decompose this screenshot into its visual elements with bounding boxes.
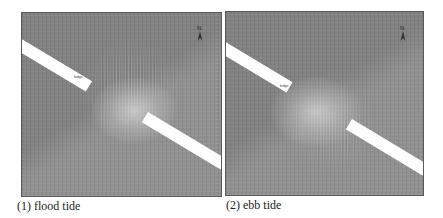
- bridge-label: bridge: [280, 84, 288, 88]
- north-arrow-icon: N: [196, 25, 204, 43]
- bridge-label: bridge: [74, 75, 82, 79]
- flood-tide-caption: (1) flood tide: [17, 199, 80, 213]
- ebb-tide-caption: (2) ebb tide: [226, 198, 281, 212]
- north-arrow-icon: N: [399, 25, 407, 43]
- ebb-tide-map: bridge N: [225, 11, 424, 196]
- flood-tide-map: bridge N: [21, 12, 222, 197]
